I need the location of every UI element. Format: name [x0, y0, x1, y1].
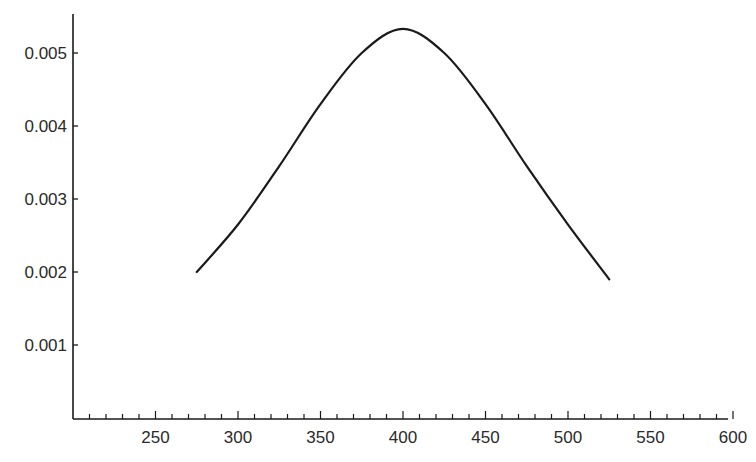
y-tick-label: 0.005	[24, 44, 67, 63]
line-chart: 0.0010.0020.0030.0040.005 25030035040045…	[0, 0, 756, 462]
x-tick-label: 500	[554, 428, 582, 447]
x-tick-label: 400	[389, 428, 417, 447]
y-tick-label: 0.002	[24, 263, 67, 282]
x-tick-label: 550	[636, 428, 664, 447]
x-axis: 250300350400450500550600	[73, 411, 747, 447]
x-tick-label: 600	[719, 428, 747, 447]
x-tick-label: 350	[306, 428, 334, 447]
y-tick-label: 0.003	[24, 190, 67, 209]
x-tick-label: 250	[141, 428, 169, 447]
y-tick-label: 0.004	[24, 117, 67, 136]
x-tick-label: 300	[224, 428, 252, 447]
data-line	[197, 29, 610, 279]
y-axis: 0.0010.0020.0030.0040.005	[24, 14, 78, 419]
plot-area	[197, 29, 610, 279]
x-tick-label: 450	[471, 428, 499, 447]
y-tick-label: 0.001	[24, 336, 67, 355]
